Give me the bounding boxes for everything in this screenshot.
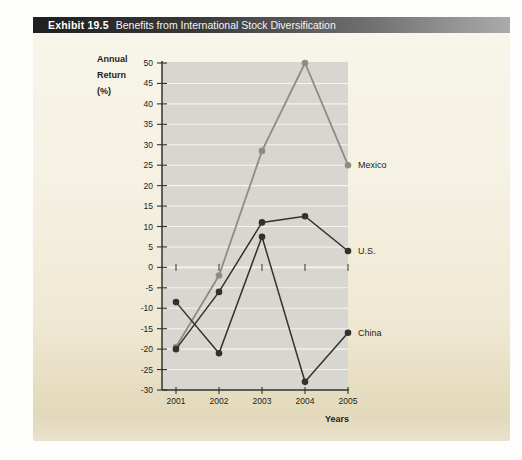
y-tick-label: -5 [145, 283, 153, 293]
data-point [216, 350, 223, 357]
y-tick-label: 45 [144, 78, 154, 88]
x-tick-label: 2001 [167, 396, 186, 406]
y-tick-label: 20 [144, 181, 154, 191]
y-tick-label: 15 [144, 201, 154, 211]
y-tick-label: 25 [144, 160, 154, 170]
data-point [259, 219, 266, 226]
y-tick-label: 40 [144, 99, 154, 109]
data-point [345, 329, 352, 336]
y-tick-label: 50 [144, 58, 154, 68]
x-tick-label: 2003 [253, 396, 272, 406]
y-tick-label: -10 [141, 303, 154, 313]
y-tick-label: 10 [144, 222, 154, 232]
data-point [259, 148, 266, 155]
series-label-us: U.S. [358, 246, 376, 256]
x-axis-title: Years [305, 414, 369, 424]
page: Exhibit 19.5 Benefits from International… [0, 0, 522, 460]
data-point [173, 346, 180, 353]
x-tick-label: 2002 [210, 396, 229, 406]
data-point [345, 248, 352, 255]
x-tick-label: 2005 [339, 396, 358, 406]
x-tick-label: 2004 [296, 396, 315, 406]
line-chart: -30-25-20-15-10-505101520253035404550200… [0, 0, 522, 460]
data-point [302, 60, 309, 67]
y-tick-label: 35 [144, 119, 154, 129]
y-tick-label: -25 [141, 365, 154, 375]
series-label-china: China [358, 328, 382, 338]
data-point [259, 233, 266, 240]
y-tick-label: 5 [148, 242, 153, 252]
data-point [302, 213, 309, 220]
data-point [302, 379, 309, 386]
y-tick-label: 0 [148, 262, 153, 272]
data-point [173, 299, 180, 306]
y-tick-label: -30 [141, 385, 154, 395]
data-point [216, 272, 223, 279]
series-label-mexico: Mexico [358, 160, 387, 170]
y-tick-label: -20 [141, 344, 154, 354]
y-tick-label: -15 [141, 324, 154, 334]
y-tick-label: 30 [144, 140, 154, 150]
data-point [345, 162, 352, 169]
data-point [216, 289, 223, 296]
